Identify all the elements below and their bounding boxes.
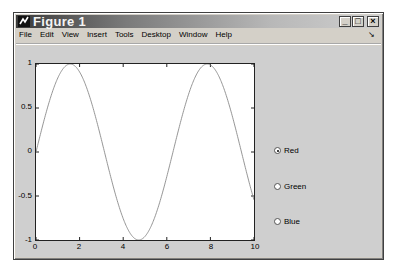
minimize-button[interactable]: _ xyxy=(339,16,351,27)
menu-file[interactable]: File xyxy=(16,29,36,41)
maximize-icon: □ xyxy=(355,17,360,26)
radio-label: Red xyxy=(284,146,299,155)
menu-help[interactable]: Help xyxy=(211,29,235,41)
y-tick-label: 1 xyxy=(16,58,32,67)
menu-window[interactable]: Window xyxy=(175,29,211,41)
figure-window: Figure 1 _ □ × File Edit View Insert Too… xyxy=(13,12,384,260)
radio-blue[interactable]: Blue xyxy=(274,217,300,226)
menu-edit[interactable]: Edit xyxy=(36,29,58,41)
figure-canvas: 1 0.5 0 -0.5 -1 0 2 4 6 8 10 Red Green xyxy=(16,46,381,257)
plot-axes[interactable] xyxy=(35,63,255,241)
menu-tools[interactable]: Tools xyxy=(111,29,138,41)
radio-red[interactable]: Red xyxy=(274,146,299,155)
maximize-button[interactable]: □ xyxy=(352,16,364,27)
radio-green[interactable]: Green xyxy=(274,182,306,191)
matlab-logo-icon xyxy=(17,16,30,28)
menu-insert[interactable]: Insert xyxy=(83,29,111,41)
x-tick-label: 2 xyxy=(71,242,87,251)
x-tick-label: 10 xyxy=(247,242,263,251)
close-icon: × xyxy=(370,17,375,26)
x-tick-label: 0 xyxy=(27,242,43,251)
radio-unchecked-icon[interactable] xyxy=(274,183,281,190)
radio-unchecked-icon[interactable] xyxy=(274,218,281,225)
menu-view[interactable]: View xyxy=(58,29,83,41)
y-tick-label: -0.5 xyxy=(16,191,32,200)
radio-checked-icon[interactable] xyxy=(274,147,281,154)
dock-arrow-icon[interactable]: ↘ xyxy=(368,30,375,39)
radio-label: Green xyxy=(284,182,306,191)
x-tick-label: 6 xyxy=(159,242,175,251)
x-tick-label: 4 xyxy=(115,242,131,251)
close-button[interactable]: × xyxy=(367,16,379,27)
menu-separator xyxy=(16,43,381,45)
window-title: Figure 1 xyxy=(33,15,86,28)
y-tick-label: 0.5 xyxy=(16,102,32,111)
x-tick-label: 8 xyxy=(203,242,219,251)
radio-label: Blue xyxy=(284,217,300,226)
title-bar[interactable]: Figure 1 _ □ × xyxy=(16,15,381,28)
menu-bar: File Edit View Insert Tools Desktop Wind… xyxy=(16,29,381,41)
minimize-icon: _ xyxy=(342,17,347,26)
y-tick-label: 0 xyxy=(16,146,32,155)
sine-plot xyxy=(36,64,254,240)
menu-desktop[interactable]: Desktop xyxy=(138,29,175,41)
